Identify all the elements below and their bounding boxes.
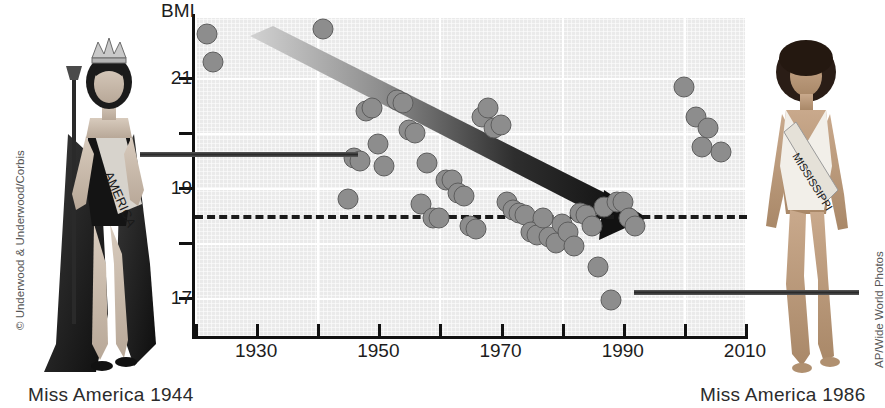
plot-background <box>195 18 745 336</box>
y-tick <box>179 132 193 135</box>
gridline-vertical <box>317 18 319 336</box>
right-photo-connector <box>634 290 859 295</box>
y-tick-label: 19 <box>132 177 192 199</box>
photo-credit-left: © Underwood & Underwood/Corbis <box>14 150 26 330</box>
y-tick <box>179 242 193 245</box>
data-point <box>417 153 438 174</box>
bmi-scatter-chart: 171921 19301950197019902010 BMI <box>195 18 745 336</box>
data-point <box>466 219 487 240</box>
gridline-vertical <box>562 18 564 336</box>
left-photo-connector <box>140 152 358 157</box>
x-tick <box>501 324 504 337</box>
data-point <box>197 24 218 45</box>
data-point <box>673 76 694 97</box>
x-tick-label: 1930 <box>216 340 296 362</box>
data-point <box>429 208 450 229</box>
y-tick-label: 21 <box>132 67 192 89</box>
data-point <box>453 186 474 207</box>
caption-miss-america-1986: Miss America 1986 <box>700 384 866 406</box>
data-point <box>698 117 719 138</box>
gridline-horizontal <box>195 133 745 135</box>
data-point <box>582 216 603 237</box>
x-tick <box>562 324 565 337</box>
data-point <box>625 216 646 237</box>
x-tick <box>256 324 259 337</box>
data-point <box>392 92 413 113</box>
x-tick <box>439 324 442 337</box>
data-point <box>203 51 224 72</box>
y-axis <box>192 14 195 339</box>
x-tick-label: 1970 <box>461 340 541 362</box>
caption-miss-america-1944: Miss America 1944 <box>28 384 194 406</box>
data-point <box>368 134 389 155</box>
data-point <box>563 235 584 256</box>
x-tick <box>623 324 626 337</box>
x-tick <box>195 324 198 337</box>
data-point <box>374 156 395 177</box>
gridline-vertical <box>195 18 197 336</box>
x-tick-label: 1950 <box>338 340 418 362</box>
gridline-vertical <box>684 18 686 336</box>
x-tick <box>745 324 748 337</box>
photo-credit-right: AP/Wide World Photos <box>873 251 885 368</box>
photo-miss-america-1986: MISSISSIPPI <box>752 14 860 376</box>
y-axis-title: BMI <box>161 0 195 22</box>
data-point <box>313 18 334 39</box>
gridline-horizontal <box>195 298 745 300</box>
x-tick-label: 2010 <box>705 340 785 362</box>
photo-1986-art: MISSISSIPPI <box>752 14 860 376</box>
x-tick <box>378 324 381 337</box>
gridline-horizontal <box>195 243 745 245</box>
data-point <box>362 98 383 119</box>
x-tick <box>317 324 320 337</box>
x-tick-label: 1990 <box>583 340 663 362</box>
data-point <box>600 290 621 311</box>
data-point <box>405 123 426 144</box>
x-tick <box>684 324 687 337</box>
data-point <box>337 188 358 209</box>
data-point <box>490 114 511 135</box>
gridline-horizontal <box>195 78 745 80</box>
data-point <box>710 142 731 163</box>
data-point <box>588 257 609 278</box>
figure-root: AMERICA <box>0 0 885 408</box>
x-axis <box>192 336 748 339</box>
y-tick-label: 17 <box>132 287 192 309</box>
